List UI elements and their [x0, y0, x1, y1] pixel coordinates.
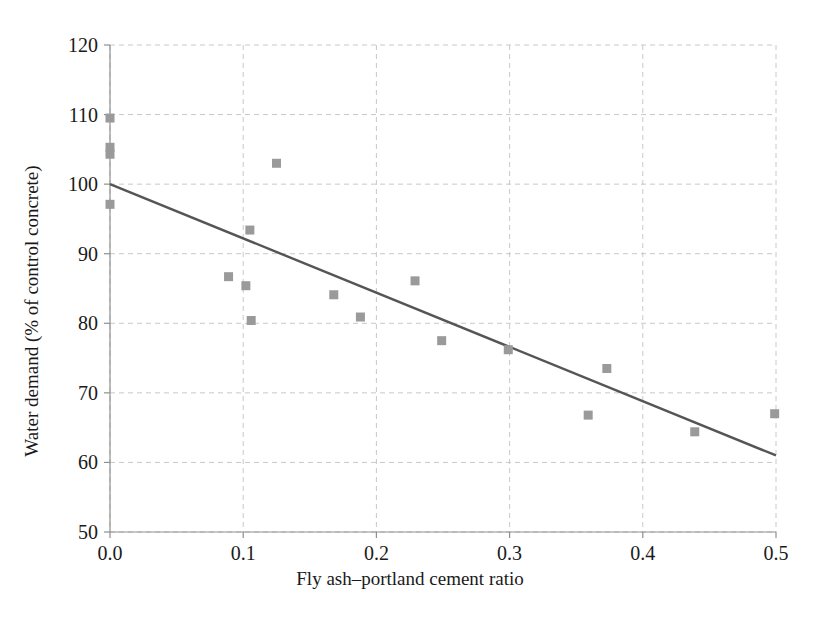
y-tick-label: 110 — [69, 104, 98, 126]
y-tick-label: 90 — [78, 243, 98, 265]
data-point-marker — [770, 409, 779, 418]
data-point-marker — [437, 336, 446, 345]
scatter-plot: 0.00.10.20.30.40.55060708090100110120 — [0, 0, 820, 622]
data-point-marker — [241, 281, 250, 290]
data-point-marker — [411, 276, 420, 285]
y-tick-label: 50 — [78, 521, 98, 543]
data-point-marker — [106, 150, 115, 159]
y-tick-label: 80 — [78, 312, 98, 334]
data-point-marker — [106, 200, 115, 209]
y-tick-label: 100 — [68, 173, 98, 195]
data-point-marker — [602, 364, 611, 373]
y-tick-label: 70 — [78, 382, 98, 404]
x-tick-label: 0.5 — [764, 542, 789, 564]
data-point-marker — [690, 427, 699, 436]
trend-line — [110, 184, 776, 455]
tick-labels: 0.00.10.20.30.40.55060708090100110120 — [68, 34, 789, 564]
data-point-marker — [247, 316, 256, 325]
data-point-marker — [224, 272, 233, 281]
x-tick-label: 0.0 — [98, 542, 123, 564]
data-point-marker — [106, 114, 115, 123]
tick-marks — [104, 45, 776, 538]
data-point-marker — [272, 159, 281, 168]
data-point-marker — [584, 411, 593, 420]
data-point-marker — [504, 345, 513, 354]
grid-lines — [110, 45, 776, 532]
axis-lines — [110, 45, 776, 532]
regression-line — [110, 184, 776, 455]
x-tick-label: 0.3 — [497, 542, 522, 564]
data-point-marker — [356, 313, 365, 322]
x-tick-label: 0.1 — [231, 542, 256, 564]
y-tick-label: 60 — [78, 451, 98, 473]
x-axis-label: Fly ash–portland cement ratio — [0, 568, 820, 590]
x-tick-label: 0.2 — [364, 542, 389, 564]
data-point-marker — [245, 226, 254, 235]
data-points — [106, 114, 780, 437]
chart-figure: 0.00.10.20.30.40.55060708090100110120 Wa… — [0, 0, 820, 622]
x-tick-label: 0.4 — [630, 542, 655, 564]
y-tick-label: 120 — [68, 34, 98, 56]
data-point-marker — [329, 290, 338, 299]
